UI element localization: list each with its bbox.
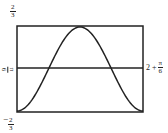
hline-right-label: 2 +π6 (146, 60, 163, 75)
hline-left-label: π6 (0, 67, 17, 73)
y-bottom-label: −23 (3, 115, 14, 132)
plot-frame (17, 26, 143, 112)
chart-canvas (0, 0, 168, 133)
cosine-curve (17, 27, 143, 111)
y-top-label: 23 (10, 2, 16, 19)
